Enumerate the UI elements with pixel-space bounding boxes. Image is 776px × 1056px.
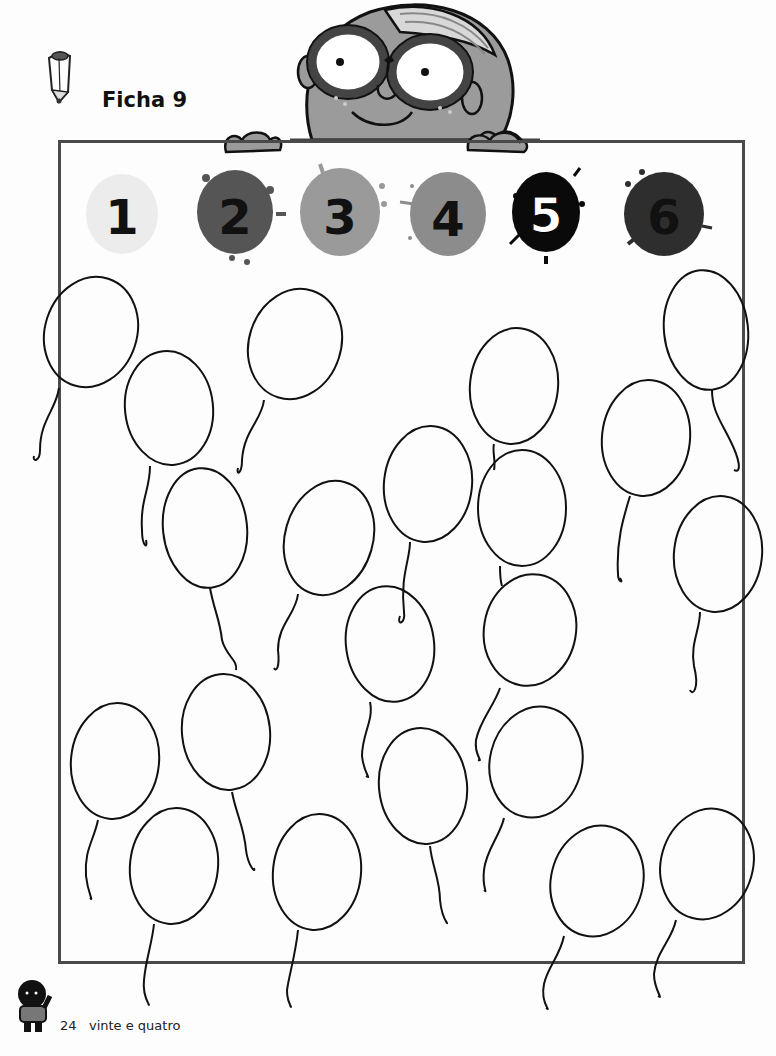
- balloon[interactable]: [539, 816, 655, 1009]
- balloon[interactable]: [475, 567, 585, 761]
- worksheet-page: Ficha 9 1 2: [0, 0, 776, 1056]
- balloon[interactable]: [119, 347, 218, 546]
- balloon[interactable]: [157, 464, 253, 670]
- page-number: 24: [60, 1018, 77, 1033]
- balloon[interactable]: [464, 324, 564, 470]
- balloon[interactable]: [373, 724, 473, 923]
- balloon[interactable]: [478, 450, 566, 586]
- balloon[interactable]: [176, 670, 276, 870]
- balloon[interactable]: [271, 470, 388, 669]
- balloon[interactable]: [124, 804, 224, 1005]
- balloon[interactable]: [658, 266, 754, 471]
- balloons-area: [0, 0, 776, 1056]
- balloon[interactable]: [65, 699, 165, 899]
- balloon[interactable]: [478, 697, 594, 892]
- balloon[interactable]: [378, 422, 478, 623]
- balloon[interactable]: [267, 810, 367, 1007]
- balloon[interactable]: [668, 492, 768, 692]
- balloon[interactable]: [234, 277, 356, 473]
- page-footer: 24 vinte e quatro: [60, 1018, 180, 1033]
- balloon[interactable]: [338, 580, 441, 777]
- page-number-words: vinte e quatro: [89, 1018, 180, 1033]
- mascot-icon: [16, 978, 56, 1038]
- balloon[interactable]: [647, 797, 766, 996]
- balloon[interactable]: [30, 265, 152, 460]
- balloon[interactable]: [596, 376, 696, 582]
